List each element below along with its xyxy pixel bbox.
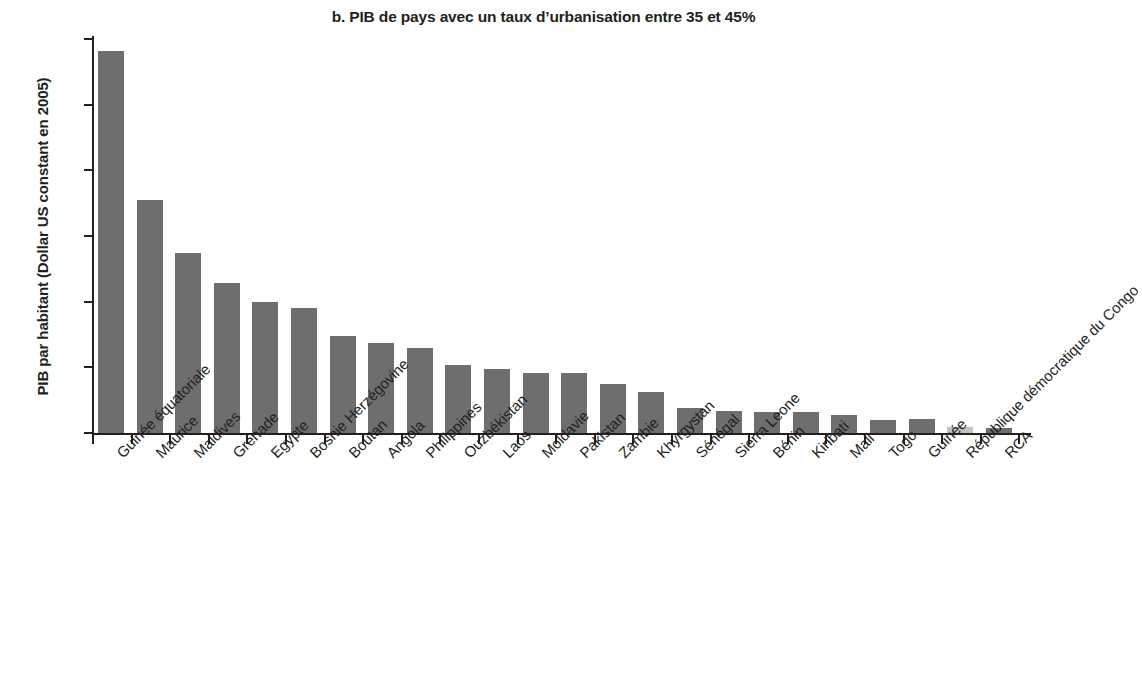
chart-title-text: b. PIB de pays avec un taux d’urbanisati… — [332, 8, 756, 25]
plot-area — [92, 39, 1030, 433]
y-tick-mark — [84, 169, 92, 171]
y-tick-mark — [84, 38, 92, 40]
y-tick-mark — [84, 432, 92, 434]
y-tick-mark — [84, 301, 92, 303]
y-axis-title: PIB par habitant (Dollar US constant en … — [34, 27, 51, 447]
y-tick-mark — [84, 235, 92, 237]
bar — [98, 51, 124, 433]
bar — [137, 200, 163, 433]
x-tick-mark — [92, 435, 94, 444]
bar — [870, 420, 896, 433]
y-tick-mark — [84, 366, 92, 368]
y-tick-mark — [84, 104, 92, 106]
bar — [291, 308, 317, 433]
chart-title: b. PIB de pays avec un taux d’urbanisati… — [0, 8, 1043, 26]
